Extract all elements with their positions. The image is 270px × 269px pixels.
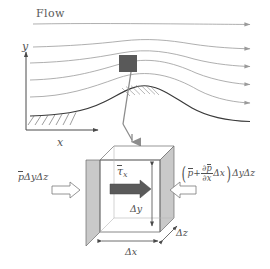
streamline-5 — [30, 74, 250, 103]
plus-sign: + — [193, 168, 201, 178]
fraction-denominator: ∂x — [201, 173, 213, 183]
dimension-dz — [163, 226, 177, 240]
tau-bar-symbol: τ — [117, 166, 123, 177]
figure-canvas — [0, 0, 270, 269]
p-bar-symbol-num: p — [206, 164, 211, 173]
streamline-2 — [33, 40, 250, 49]
right-pressure-force-label: (p+∂p∂xΔx)ΔyΔz — [180, 164, 255, 183]
delta-x-term: Δx — [213, 168, 225, 178]
left-pressure-arrow — [52, 182, 80, 198]
leader-line-group — [123, 72, 132, 142]
shear-stress-arrow — [110, 180, 151, 198]
right-paren: ) — [226, 164, 231, 183]
p-bar-symbol-left: p — [18, 172, 24, 182]
left-pressure-suffix: ΔyΔz — [24, 171, 48, 182]
fraction-numerator: ∂p — [201, 164, 213, 173]
fluid-control-volume-figure: Flow y x pΔyΔz τx (p+∂p∂xΔx)ΔyΔz Δy Δx Δ… — [0, 0, 270, 269]
left-paren: ( — [181, 164, 186, 183]
partial-derivative-fraction: ∂p∂x — [201, 164, 213, 182]
delta-z-label: Δz — [176, 228, 188, 238]
control-volume-box — [86, 146, 174, 246]
streamline-3 — [30, 51, 250, 67]
box-front-face — [100, 160, 160, 232]
streamline-1 — [33, 24, 250, 25]
flow-label: Flow — [36, 8, 65, 19]
shear-stress-label: τx — [117, 166, 128, 179]
right-pressure-suffix: ΔyΔz — [232, 168, 255, 178]
delta-y-label: Δy — [130, 204, 142, 214]
box-left-face — [86, 160, 100, 246]
x-axis-label: x — [57, 137, 63, 148]
delta-x-label: Δx — [125, 247, 137, 257]
left-pressure-force-label: pΔyΔz — [18, 172, 48, 182]
control-volume-marker — [119, 55, 137, 72]
p-bar-symbol-right: p — [187, 169, 193, 178]
tau-subscript: x — [123, 170, 127, 179]
y-axis-label: y — [22, 41, 28, 52]
streamlines-group — [30, 24, 250, 103]
terrain-profile — [30, 86, 250, 122]
